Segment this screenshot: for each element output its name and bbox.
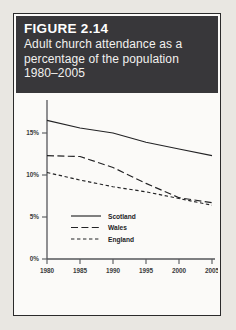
figure-caption-line-2: percentage of the population (24, 52, 211, 67)
x-tick-label: 1980 (40, 267, 55, 274)
y-axis-ticks: 0%5%10%15% (26, 129, 47, 262)
figure-container: FIGURE 2.14 Adult church attendance as a… (13, 13, 221, 316)
legend-label-wales: Wales (108, 224, 127, 231)
figure-number-label: FIGURE 2.14 (24, 21, 211, 36)
chart-svg: 0%5%10%15% 198019851990199520002005 Scot… (16, 94, 218, 313)
series-line-england (47, 172, 212, 205)
x-tick-label: 2005 (205, 267, 218, 274)
x-tick-label: 1985 (73, 267, 88, 274)
legend-label-england: England (108, 236, 134, 244)
figure-caption-line-1: Adult church attendance as a (24, 37, 211, 52)
legend-label-scotland: Scotland (108, 213, 136, 220)
y-tick-label: 10% (26, 171, 39, 178)
y-tick-label: 0% (30, 255, 40, 262)
y-tick-label: 5% (30, 213, 40, 220)
x-tick-label: 1995 (139, 267, 154, 274)
data-series-group (47, 120, 212, 205)
chart-legend: ScotlandWalesEngland (71, 213, 136, 244)
figure-caption-line-3: 1980–2005 (24, 66, 211, 81)
series-line-scotland (47, 120, 212, 155)
line-chart: 0%5%10%15% 198019851990199520002005 Scot… (16, 94, 218, 313)
x-tick-label: 1990 (106, 267, 121, 274)
series-line-wales (47, 156, 212, 203)
x-tick-label: 2000 (172, 267, 187, 274)
x-axis-ticks: 198019851990199520002005 (40, 259, 218, 274)
y-tick-label: 15% (26, 129, 39, 136)
figure-header-banner: FIGURE 2.14 Adult church attendance as a… (16, 16, 218, 93)
